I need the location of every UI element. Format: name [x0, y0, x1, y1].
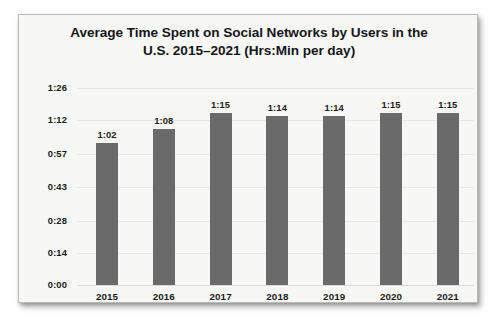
gridline-1-26 — [77, 88, 474, 89]
y-axis-tick-label: 0:14 — [19, 247, 67, 258]
chart-card: Average Time Spent on Social Networks by… — [18, 14, 478, 303]
bar-value-label-2016: 1:08 — [139, 115, 189, 126]
bar-value-label-2015: 1:02 — [82, 129, 132, 140]
x-axis-tick-label-2018: 2018 — [252, 291, 302, 302]
bar-2020[interactable] — [380, 113, 402, 285]
plot-area: 0:000:140:280:430:571:121:261:0220151:08… — [19, 15, 479, 302]
bar-value-label-2017: 1:15 — [196, 99, 246, 110]
x-axis-tick-label-2021: 2021 — [423, 291, 473, 302]
gridline-0-00 — [77, 285, 474, 286]
x-axis-tick-label-2019: 2019 — [309, 291, 359, 302]
bar-2018[interactable] — [266, 116, 288, 286]
y-axis-tick-label: 0:57 — [19, 148, 67, 159]
bar-2021[interactable] — [437, 113, 459, 285]
bar-value-label-2019: 1:14 — [309, 102, 359, 113]
y-axis-tick-label: 1:12 — [19, 114, 67, 125]
bar-2015[interactable] — [96, 143, 118, 285]
x-axis-tick-label-2017: 2017 — [196, 291, 246, 302]
x-axis-tick-label-2015: 2015 — [82, 291, 132, 302]
y-axis-tick-label: 0:00 — [19, 279, 67, 290]
bar-value-label-2021: 1:15 — [423, 99, 473, 110]
y-axis-tick-label: 1:26 — [19, 82, 67, 93]
bar-value-label-2018: 1:14 — [252, 102, 302, 113]
bar-2019[interactable] — [323, 116, 345, 286]
bar-2016[interactable] — [153, 129, 175, 285]
bar-2017[interactable] — [210, 113, 232, 285]
y-axis-tick-label: 0:43 — [19, 181, 67, 192]
x-axis-tick-label-2016: 2016 — [139, 291, 189, 302]
page-root: Average Time Spent on Social Networks by… — [0, 0, 498, 321]
bar-value-label-2020: 1:15 — [366, 99, 416, 110]
y-axis-tick-label: 0:28 — [19, 215, 67, 226]
x-axis-tick-label-2020: 2020 — [366, 291, 416, 302]
